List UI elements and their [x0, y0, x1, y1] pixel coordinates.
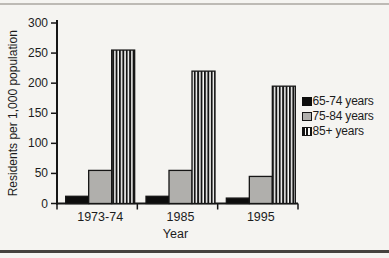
- legend-label: 85+ years: [312, 125, 364, 137]
- legend-label: 65-74 years: [312, 95, 374, 107]
- svg-text:1995: 1995: [247, 210, 275, 224]
- svg-text:300: 300: [28, 16, 48, 30]
- legend-item-75-84: 75-84 years: [302, 110, 374, 123]
- bottom-page-rule: [0, 250, 389, 253]
- legend-item-85plus: 85+ years: [302, 125, 374, 138]
- svg-text:1985: 1985: [167, 210, 195, 224]
- svg-text:0: 0: [41, 197, 48, 211]
- legend-swatch-black-icon: [302, 97, 312, 107]
- legend-label: 75-84 years: [312, 110, 374, 122]
- figure-area: 0501001502002503001973-7419851995YearRes…: [0, 0, 389, 258]
- svg-text:Year: Year: [163, 227, 188, 241]
- plot-group: 0501001502002503001973-7419851995YearRes…: [6, 16, 298, 241]
- legend-swatch-gray-icon: [302, 112, 312, 122]
- svg-text:Residents per 1,000 population: Residents per 1,000 population: [6, 30, 20, 196]
- svg-text:50: 50: [35, 166, 49, 180]
- svg-text:150: 150: [28, 106, 48, 120]
- svg-text:1973-74: 1973-74: [77, 210, 123, 224]
- svg-text:250: 250: [28, 46, 48, 60]
- chart-legend: 65-74 years 75-84 years 85+ years: [302, 95, 374, 138]
- svg-text:200: 200: [28, 76, 48, 90]
- legend-item-65-74: 65-74 years: [302, 95, 374, 108]
- svg-text:100: 100: [28, 136, 48, 150]
- legend-swatch-striped-icon: [302, 127, 312, 137]
